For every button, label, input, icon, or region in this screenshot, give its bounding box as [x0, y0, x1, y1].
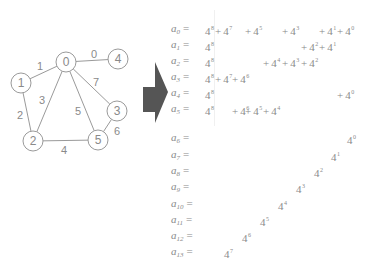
power-term: 41: [331, 148, 340, 163]
equals-sign: =: [183, 86, 189, 98]
plus-sign: +: [215, 25, 221, 37]
equation-label-a13: a13=: [171, 245, 193, 261]
variable-index: 2: [177, 60, 181, 68]
base: 4: [331, 151, 337, 163]
base: 4: [347, 134, 353, 146]
exponent: 3: [296, 25, 299, 31]
power-term: 47: [224, 245, 233, 260]
equals-sign: =: [183, 131, 189, 143]
power-term: 44: [278, 197, 287, 212]
power-term: +43: [282, 54, 299, 69]
equation-label-a5: a5=: [171, 102, 189, 118]
exponent: 4: [284, 200, 287, 206]
plus-sign: +: [301, 41, 307, 53]
power-term: +45: [245, 22, 262, 37]
power-term: 48: [205, 86, 214, 101]
power-term: 40: [347, 131, 356, 146]
plus-sign: +: [301, 57, 307, 69]
equals-sign: =: [183, 38, 189, 50]
base: 4: [205, 89, 211, 101]
plus-sign: +: [245, 105, 251, 117]
plus-sign: +: [337, 25, 343, 37]
power-term: +47: [215, 70, 232, 85]
plus-sign: +: [282, 57, 288, 69]
equation-label-a1: a1=: [171, 38, 189, 54]
exponent: 2: [320, 167, 323, 173]
exponent: 8: [211, 89, 214, 95]
power-term: 45: [260, 213, 269, 228]
exponent: 7: [230, 248, 233, 254]
base: 4: [253, 25, 259, 37]
arrow-shape: [143, 62, 168, 123]
equals-sign: =: [187, 245, 193, 257]
exponent: 0: [353, 134, 356, 140]
exponent: 8: [211, 105, 214, 111]
base: 4: [240, 73, 246, 85]
power-term: 48: [205, 22, 214, 37]
base: 4: [290, 25, 296, 37]
plus-sign: +: [245, 25, 251, 37]
plus-sign: +: [263, 57, 269, 69]
exponent: 6: [246, 73, 249, 79]
exponent: 8: [211, 73, 214, 79]
base: 4: [205, 41, 211, 53]
exponent: 8: [211, 41, 214, 47]
variable-index: 3: [177, 76, 181, 84]
equals-sign: =: [183, 148, 189, 160]
power-term: 48: [205, 54, 214, 69]
equals-sign: =: [183, 22, 189, 34]
power-term: +46: [232, 70, 249, 85]
equation-label-a9: a9=: [171, 180, 189, 196]
power-term: 43: [296, 180, 305, 195]
base: 4: [223, 25, 229, 37]
power-term: 48: [205, 38, 214, 53]
power-term: +44: [263, 54, 280, 69]
equals-sign: =: [187, 229, 193, 241]
equals-sign: =: [187, 197, 193, 209]
variable-index: 4: [177, 92, 181, 100]
exponent: 3: [302, 183, 305, 189]
plus-sign: +: [319, 41, 325, 53]
base: 4: [314, 167, 320, 179]
power-term: +44: [263, 102, 280, 117]
base: 4: [327, 41, 333, 53]
variable-index: 10: [177, 203, 184, 211]
plus-sign: +: [232, 73, 238, 85]
base: 4: [271, 105, 277, 117]
exponent: 7: [229, 25, 232, 31]
variable-index: 12: [177, 235, 184, 243]
base: 4: [278, 200, 284, 212]
equals-sign: =: [183, 54, 189, 66]
power-term: +45: [245, 102, 262, 117]
power-term: +41: [319, 22, 336, 37]
plus-sign: +: [337, 89, 343, 101]
equals-sign: =: [186, 213, 192, 225]
power-term: +41: [319, 38, 336, 53]
exponent: 8: [211, 25, 214, 31]
variable-index: 1: [177, 44, 181, 52]
plus-sign: +: [319, 25, 325, 37]
exponent: 2: [315, 41, 318, 47]
exponent: 3: [296, 57, 299, 63]
variable-index: 11: [177, 219, 183, 227]
power-term: 46: [242, 229, 251, 244]
equals-sign: =: [183, 70, 189, 82]
base: 4: [296, 183, 302, 195]
variable-index: 13: [177, 251, 184, 259]
exponent: 4: [277, 57, 280, 63]
equation-label-a7: a7=: [171, 148, 189, 164]
power-term: 42: [314, 164, 323, 179]
variable-index: 7: [177, 154, 181, 162]
power-term: 48: [205, 70, 214, 85]
base: 4: [253, 105, 259, 117]
power-term: +42: [301, 54, 318, 69]
exponent: 1: [333, 41, 336, 47]
exponent: 5: [259, 25, 262, 31]
equation-label-a3: a3=: [171, 70, 189, 86]
plus-sign: +: [215, 73, 221, 85]
power-term: 48: [205, 102, 214, 117]
exponent: 4: [277, 105, 280, 111]
power-term: +43: [282, 22, 299, 37]
plus-sign: +: [232, 105, 238, 117]
equation-label-a10: a10=: [171, 197, 193, 213]
